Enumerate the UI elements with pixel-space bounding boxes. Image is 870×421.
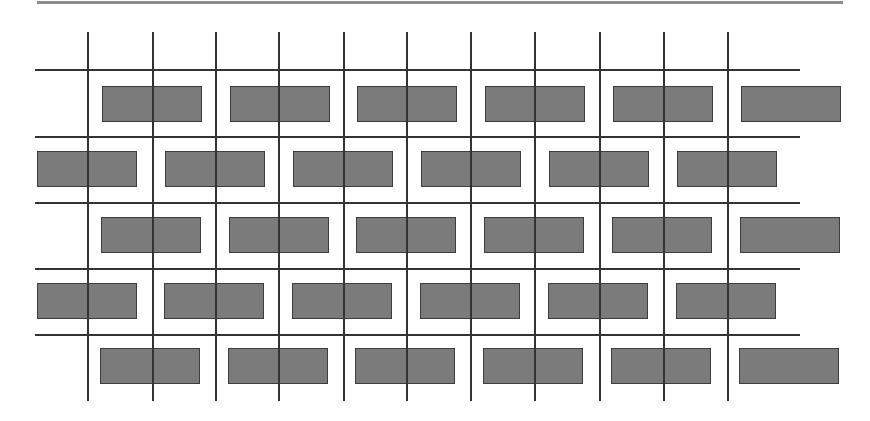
vertical-grid-line <box>215 32 217 401</box>
brick <box>101 217 201 253</box>
brick <box>740 217 840 253</box>
brick <box>548 283 648 319</box>
brick <box>483 348 583 384</box>
top-rule <box>37 1 843 4</box>
vertical-grid-line <box>406 32 408 401</box>
brick <box>100 348 200 384</box>
brick <box>676 283 776 319</box>
horizontal-grid-line <box>35 202 800 204</box>
vertical-grid-line <box>343 32 345 401</box>
brick <box>612 217 712 253</box>
brick <box>292 283 392 319</box>
horizontal-grid-line <box>35 69 800 71</box>
vertical-grid-line <box>663 32 665 401</box>
brick <box>230 86 330 122</box>
vertical-grid-line <box>152 32 154 401</box>
horizontal-grid-line <box>35 334 800 336</box>
vertical-grid-line <box>278 32 280 401</box>
horizontal-grid-line <box>35 268 800 270</box>
brick <box>611 348 711 384</box>
horizontal-grid-line <box>35 136 800 138</box>
brick <box>355 348 455 384</box>
vertical-grid-line <box>470 32 472 401</box>
vertical-grid-line <box>87 32 89 401</box>
vertical-grid-line <box>534 32 536 401</box>
vertical-grid-line <box>727 32 729 401</box>
brick <box>739 348 839 384</box>
brick <box>164 283 264 319</box>
brick-grid-diagram <box>0 0 870 421</box>
vertical-grid-line <box>599 32 601 401</box>
brick <box>741 86 841 122</box>
